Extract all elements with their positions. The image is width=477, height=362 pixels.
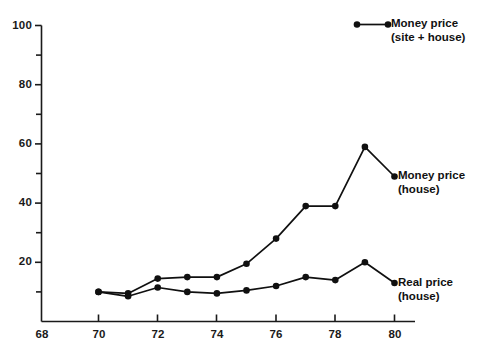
annotation-real-price-house: Real price (house): [398, 276, 453, 303]
annotation-label-line2: (house): [398, 290, 453, 304]
series-money-price-house: [95, 144, 398, 297]
annotation-label-line1: Real price: [398, 276, 453, 288]
y-tick-label-20: 20: [2, 255, 32, 267]
legend-label-line1: Money price: [391, 17, 458, 29]
chart-container: 100 80 60 40 20 68 70 72 74 76 78 80 Mon…: [0, 0, 477, 362]
x-tick-label-68: 68: [26, 328, 58, 340]
y-axis-major-ticks: [35, 26, 42, 263]
x-tick-label-70: 70: [83, 328, 115, 340]
x-tick-label-80: 80: [379, 328, 411, 340]
annotation-label-line2: (house): [398, 183, 465, 197]
x-tick-label-78: 78: [319, 328, 351, 340]
y-tick-label-60: 60: [2, 137, 32, 149]
legend-label-line2: (site + house): [391, 31, 465, 45]
y-tick-label-40: 40: [2, 196, 32, 208]
x-tick-label-72: 72: [142, 328, 174, 340]
x-tick-label-74: 74: [201, 328, 233, 340]
y-tick-label-100: 100: [2, 19, 32, 31]
x-tick-label-76: 76: [260, 328, 292, 340]
x-axis-major-ticks: [99, 315, 395, 322]
series-markers-money-price-house: [95, 144, 398, 297]
legend-money-price-site-house: Money price (site + house): [391, 17, 465, 44]
y-tick-label-80: 80: [2, 78, 32, 90]
annotation-label-line1: Money price: [398, 169, 465, 181]
y-axis-minor-ticks: [36, 55, 42, 292]
annotation-money-price-house: Money price (house): [398, 169, 465, 196]
legend-sample-money-price-site-house: [354, 21, 392, 28]
